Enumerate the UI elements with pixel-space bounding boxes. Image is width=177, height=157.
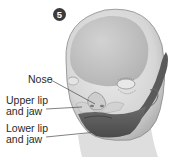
embryo-face-diagram: 5 Nose Upper lip and jaw Lower lip and j… (0, 0, 177, 157)
label-lower-lip-line2: and jaw (6, 134, 42, 145)
label-nose: Nose (28, 74, 53, 85)
step-badge: 5 (53, 8, 66, 21)
label-upper-lip-line2: and jaw (6, 106, 42, 117)
right-eye (117, 79, 135, 89)
